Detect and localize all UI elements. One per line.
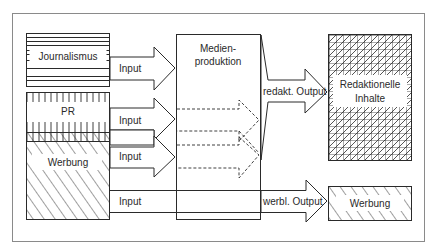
process-medienproduktion: Medien- produktion xyxy=(177,35,261,220)
source-journalismus: Journalismus xyxy=(27,34,110,87)
result-werbung-label: Werbung xyxy=(350,198,390,209)
result-redaktionelle-inhalte: Redaktionelle Inhalte xyxy=(328,34,412,161)
source-pr-label: PR xyxy=(61,106,75,117)
result-werbung: Werbung xyxy=(328,186,412,221)
process-label-line2: produktion xyxy=(195,56,242,67)
diagram-canvas: Journalismus PR Werbung Input Input Inpu… xyxy=(0,0,436,250)
source-pr-werbung: PR Werbung xyxy=(27,93,110,220)
source-werbung-label: Werbung xyxy=(48,157,88,168)
input-label: Input xyxy=(119,196,141,207)
result-redaktionelle-label-line1: Redaktionelle xyxy=(340,79,401,90)
output-redakt-label: redakt. Output xyxy=(263,86,327,97)
source-journalismus-label: Journalismus xyxy=(39,51,98,62)
input-label: Input xyxy=(119,115,141,126)
input-arrow-overlap xyxy=(110,130,154,145)
process-label-line1: Medien- xyxy=(200,43,236,54)
output-werbl-label: werbl. Output xyxy=(262,196,323,207)
input-label: Input xyxy=(119,151,141,162)
result-redaktionelle-label-line2: Inhalte xyxy=(355,93,385,104)
input-label: Input xyxy=(119,63,141,74)
